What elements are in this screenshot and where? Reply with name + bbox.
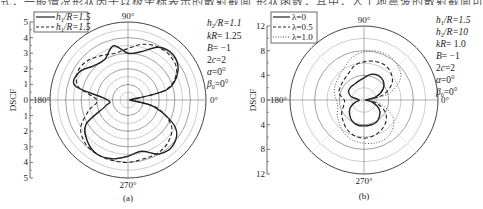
angle-label-180-a: 180° — [33, 95, 51, 105]
svg-text:α=0°: α=0° — [436, 75, 455, 85]
angle-label-90-a: 90° — [122, 11, 135, 21]
svg-text:kR= 1.0: kR= 1.0 — [436, 39, 466, 49]
curve-b-lambda-1-0 — [334, 51, 401, 144]
svg-text:2: 2 — [24, 126, 29, 136]
legend-a: h1/R=1.5 h1/R=1.5 — [34, 12, 91, 33]
legend-b-item-0: λ=0 — [292, 12, 306, 22]
svg-text:0: 0 — [261, 95, 266, 105]
legend-b-item-2: λ=1.0 — [292, 32, 313, 42]
svg-text:8: 8 — [261, 144, 266, 154]
svg-text:h2/R=1.1: h2/R=1.1 — [207, 18, 241, 29]
svg-text:β0=0°: β0=0° — [435, 87, 458, 98]
legend-b: λ=0 λ=0.5 λ=1.0 — [271, 12, 317, 43]
radial-axis-a: 54321012345 DSCF — [8, 17, 33, 183]
svg-text:2c=2: 2c=2 — [436, 63, 455, 73]
svg-text:3: 3 — [24, 48, 29, 58]
svg-text:3: 3 — [24, 142, 29, 152]
params-b: h1/R=1.5 h2/R=10 kR= 1.0 B= −1 2c=2 α=0°… — [435, 15, 471, 98]
svg-text:12: 12 — [256, 21, 265, 31]
angle-label-270-a: 270° — [119, 180, 137, 190]
svg-text:B= −1: B= −1 — [207, 43, 231, 53]
panel-a: 54321012345 DSCF 90° 180° 0° 270° (a) h1… — [8, 11, 242, 203]
svg-text:1: 1 — [24, 111, 29, 121]
svg-text:4: 4 — [261, 120, 266, 130]
svg-text:4: 4 — [24, 33, 29, 43]
radial-axis-label-a: DSCF — [8, 89, 18, 112]
svg-text:2c=2: 2c=2 — [207, 55, 226, 65]
panel-b: 128404812 DSCF 90° 180° 0° 270° (b) λ=0 … — [248, 12, 471, 201]
legend-b-item-1: λ=0.5 — [292, 22, 313, 32]
svg-text:4: 4 — [24, 157, 29, 167]
angle-label-0-a: 0° — [210, 95, 219, 105]
svg-text:8: 8 — [261, 46, 266, 56]
radial-axis-label-b: DSCF — [248, 89, 258, 112]
angle-label-270-b: 270° — [355, 176, 373, 186]
params-a: h2/R=1.1 kR= 1.25 B= −1 2c=2 α=0° β0=0° — [206, 18, 242, 90]
svg-text:h1/R=1.5: h1/R=1.5 — [436, 15, 471, 26]
curve-a-dashed — [76, 44, 176, 162]
svg-text:2: 2 — [24, 64, 29, 74]
radial-axis-b: 128404812 DSCF — [248, 21, 270, 179]
svg-text:5: 5 — [24, 17, 29, 27]
polar-grid-b — [267, 26, 438, 174]
panel-label-a: (a) — [123, 193, 133, 203]
svg-text:h2/R=10: h2/R=10 — [436, 27, 468, 38]
svg-text:α=0°: α=0° — [207, 67, 226, 77]
panel-label-b: (b) — [359, 191, 370, 201]
angle-label-90-b: 90° — [358, 15, 371, 25]
svg-text:B= −1: B= −1 — [436, 51, 460, 61]
svg-text:0: 0 — [24, 95, 29, 105]
polar-grid-a — [30, 22, 206, 178]
svg-text:β0=0°: β0=0° — [206, 79, 229, 90]
svg-text:5: 5 — [24, 173, 29, 183]
svg-text:kR= 1.25: kR= 1.25 — [207, 31, 242, 41]
svg-text:4: 4 — [261, 70, 266, 80]
figure-canvas: 54321012345 DSCF 90° 180° 0° 270° (a) h1… — [0, 0, 483, 209]
svg-text:1: 1 — [24, 79, 29, 89]
angle-label-180-b: 180° — [270, 95, 288, 105]
svg-text:12: 12 — [256, 169, 265, 179]
